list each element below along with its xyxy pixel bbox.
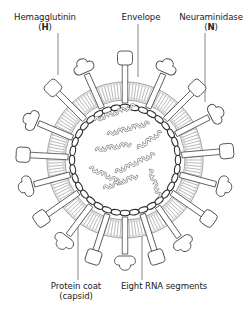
rna-segments-label-text: Eight RNA segments [112, 281, 216, 291]
hemagglutinin-label-text: Hemagglutinin [2, 12, 88, 22]
neuraminidase-label-text: Neuraminidase [168, 12, 252, 22]
envelope-label: Envelope [109, 12, 173, 22]
envelope-label-text: Envelope [109, 12, 173, 22]
rna-segments-label: Eight RNA segments [112, 281, 216, 291]
protein-coat-label-text: Protein coat [38, 281, 114, 291]
capsid-bead [175, 155, 180, 165]
capsid-bead [120, 210, 130, 215]
hemagglutinin-abbrev: (H) [2, 22, 88, 32]
virus-diagram [0, 0, 252, 312]
capsid-bead [69, 155, 74, 165]
capsid-label-text: (capsid) [38, 291, 114, 301]
hemagglutinin-label: Hemagglutinin (H) [2, 12, 88, 32]
protein-coat-label: Protein coat (capsid) [38, 281, 114, 301]
neuraminidase-abbrev: (N) [168, 22, 252, 32]
neuraminidase-label: Neuraminidase (N) [168, 12, 252, 32]
